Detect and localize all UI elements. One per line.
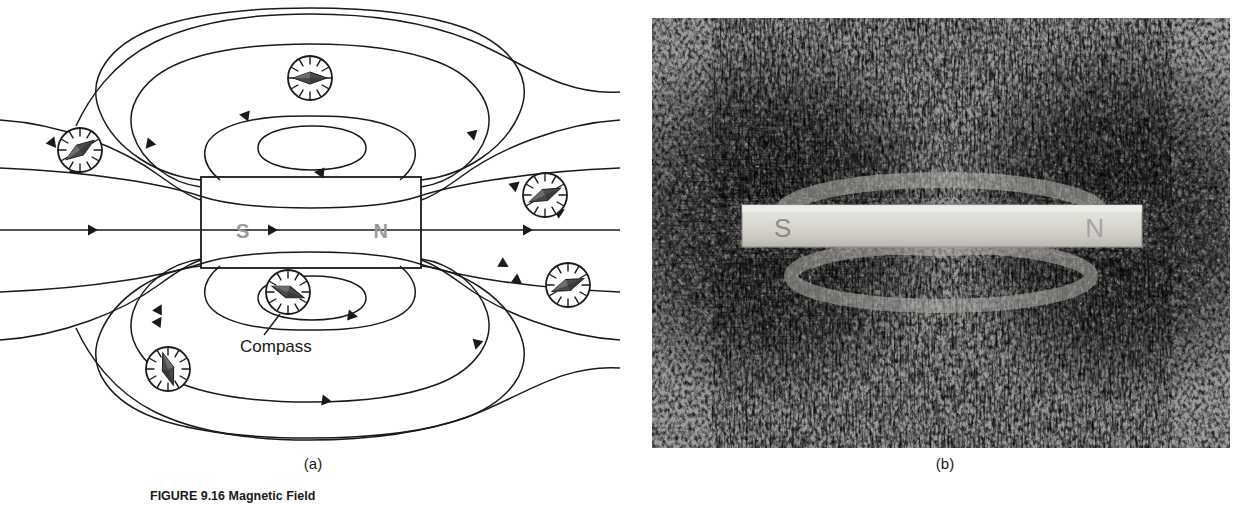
arrowhead — [511, 274, 526, 289]
arrowhead — [508, 177, 523, 192]
field-line-tiny-upper — [258, 126, 366, 170]
arrowhead — [151, 314, 166, 328]
photo-magnet-north-label: N — [1085, 213, 1104, 243]
figure-caption: FIGURE 9.16 Magnetic Field — [150, 489, 850, 503]
field-line-loop4-lower — [310, 266, 415, 330]
panel-b-label: (b) — [915, 455, 975, 472]
compass-upper-right — [523, 173, 567, 217]
compass-leader-line — [264, 314, 280, 335]
arrowhead — [88, 225, 98, 236]
field-line-loop3-upper — [310, 44, 489, 187]
compass-top — [288, 56, 332, 100]
compass-lower-left — [146, 347, 190, 391]
arrowhead — [523, 225, 533, 236]
panel-a-label: (a) — [283, 455, 343, 472]
compass-callout-label: Compass — [240, 337, 312, 356]
panel-b-photograph: S N — [652, 18, 1230, 448]
bar-magnet: S N — [201, 177, 421, 268]
magnet-south-label: S — [236, 220, 249, 242]
magnet-body — [201, 177, 421, 268]
compass-lower-right — [546, 263, 590, 307]
panel-a-diagram: S N — [0, 0, 620, 452]
magnet-north-label: N — [374, 220, 388, 242]
arrowhead — [238, 109, 249, 121]
field-line-loop2-upper-left — [96, 8, 310, 180]
arrowhead — [268, 225, 278, 236]
photo-bar-magnet: S N — [742, 205, 1142, 247]
arrowhead — [141, 137, 156, 152]
compass-upper-left — [58, 128, 102, 172]
arrowhead — [321, 395, 332, 407]
arrowhead — [497, 257, 511, 272]
field-line-loop3-upper-left — [131, 44, 310, 187]
field-line-outer-upper-right — [76, 14, 620, 126]
photo-magnet-south-label: S — [774, 213, 791, 243]
caption-title: Magnetic Field — [229, 489, 316, 503]
field-line-loop3-lower — [310, 259, 489, 402]
arrowhead — [470, 339, 483, 351]
field-line-loop4-upper — [310, 116, 415, 180]
field-line-loop2-upper — [310, 8, 524, 180]
arrowhead — [467, 130, 480, 142]
arrowhead — [152, 302, 166, 316]
field-line-loop2-lower — [310, 266, 524, 438]
compasses-group — [58, 56, 590, 391]
compass-bottom — [266, 270, 310, 314]
caption-number: FIGURE 9.16 — [150, 489, 225, 503]
figure-root: S N — [0, 0, 1242, 505]
